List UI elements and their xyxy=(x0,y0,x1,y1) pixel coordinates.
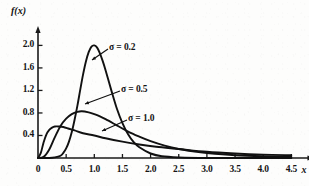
y-tick-label: 0.8 xyxy=(2,107,34,117)
y-axis-title: f(x) xyxy=(11,5,26,16)
x-tick-label: 0.5 xyxy=(52,164,80,174)
lognormal-pdf-figure: 00.51.01.52.02.53.03.54.04.50.40.81.21.6… xyxy=(0,0,309,186)
curve-1 xyxy=(38,126,291,158)
leader-arrowhead xyxy=(85,101,89,104)
y-tick-label: 0.4 xyxy=(2,129,34,139)
series-annotation-label: σ = 1.0 xyxy=(128,113,155,123)
x-tick-label: 1.5 xyxy=(108,164,136,174)
x-tick-label: 3.0 xyxy=(193,164,221,174)
x-tick-label: 1.0 xyxy=(80,164,108,174)
y-tick-label: 1.2 xyxy=(2,84,34,94)
x-axis-title: x xyxy=(301,164,306,175)
chart-canvas xyxy=(0,0,309,186)
y-axis-arrowhead xyxy=(35,26,40,33)
x-tick-label: 2.0 xyxy=(137,164,165,174)
x-tick-label: 4.0 xyxy=(249,164,277,174)
x-tick-label: 2.5 xyxy=(165,164,193,174)
data-curves xyxy=(38,45,291,158)
x-axis-arrowhead xyxy=(307,155,309,160)
y-tick-label: 1.6 xyxy=(2,62,34,72)
y-tick-label: 2.0 xyxy=(2,39,34,49)
series-annotation-label: σ = 0.5 xyxy=(121,84,148,94)
curve-0.2 xyxy=(38,45,291,158)
curve-0.5 xyxy=(38,111,291,158)
axes xyxy=(35,26,309,161)
x-tick-label: 3.5 xyxy=(221,164,249,174)
series-annotation-label: σ = 0.2 xyxy=(109,42,136,52)
x-tick-label: 0 xyxy=(24,164,52,174)
